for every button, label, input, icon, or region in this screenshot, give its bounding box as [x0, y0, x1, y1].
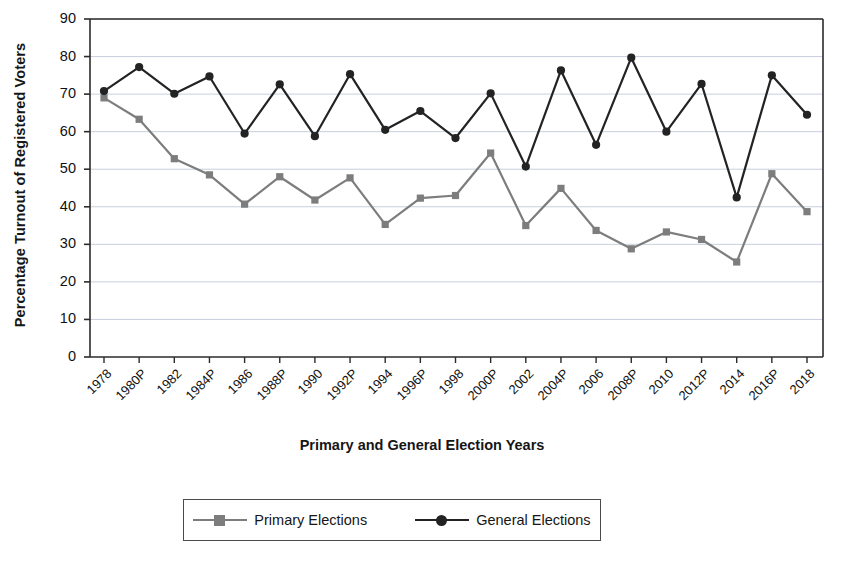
legend-circle-marker-icon	[436, 515, 447, 526]
y-tick-label: 50	[50, 160, 76, 176]
data-point[interactable]	[522, 222, 529, 229]
data-point[interactable]	[452, 192, 459, 199]
data-point[interactable]	[487, 149, 494, 156]
data-point[interactable]	[346, 174, 353, 181]
y-tick-label: 70	[50, 85, 76, 101]
data-point[interactable]	[522, 162, 530, 170]
data-point[interactable]	[663, 228, 670, 235]
y-tick-label: 90	[50, 10, 76, 26]
data-point[interactable]	[733, 258, 740, 265]
data-point[interactable]	[768, 71, 776, 79]
data-point[interactable]	[311, 196, 318, 203]
voter-turnout-line-chart: Percentage Turnout of Registered Voters …	[0, 0, 844, 561]
chart-legend: Primary Elections General Elections	[183, 499, 601, 541]
data-point[interactable]	[593, 227, 600, 234]
data-point[interactable]	[170, 90, 178, 98]
data-point[interactable]	[451, 134, 459, 142]
data-point[interactable]	[487, 89, 495, 97]
legend-label-primary: Primary Elections	[254, 512, 367, 528]
data-point[interactable]	[803, 111, 811, 119]
data-point[interactable]	[241, 129, 249, 137]
y-tick-label: 40	[50, 198, 76, 214]
y-tick-label: 0	[50, 348, 76, 364]
data-point[interactable]	[276, 80, 284, 88]
y-tick-label: 30	[50, 235, 76, 251]
legend-item-general-elections[interactable]: General Elections	[415, 512, 590, 528]
data-point[interactable]	[311, 132, 319, 140]
data-point[interactable]	[100, 87, 108, 95]
data-point[interactable]	[557, 185, 564, 192]
data-point[interactable]	[592, 141, 600, 149]
data-point[interactable]	[276, 173, 283, 180]
data-point[interactable]	[698, 236, 705, 243]
data-point[interactable]	[346, 70, 354, 78]
data-point[interactable]	[417, 195, 424, 202]
data-point[interactable]	[557, 66, 565, 74]
data-point[interactable]	[627, 54, 635, 62]
data-point[interactable]	[697, 80, 705, 88]
data-point[interactable]	[171, 155, 178, 162]
y-tick-label: 80	[50, 48, 76, 64]
y-tick-label: 60	[50, 123, 76, 139]
data-point[interactable]	[241, 201, 248, 208]
legend-square-marker-icon	[214, 515, 225, 526]
data-point[interactable]	[733, 193, 741, 201]
data-point[interactable]	[206, 171, 213, 178]
data-point[interactable]	[662, 128, 670, 136]
y-tick-label: 10	[50, 310, 76, 326]
data-point[interactable]	[136, 116, 143, 123]
data-point[interactable]	[768, 170, 775, 177]
x-axis-title: Primary and General Election Years	[0, 437, 844, 453]
data-point[interactable]	[803, 208, 810, 215]
data-point[interactable]	[135, 63, 143, 71]
data-point[interactable]	[100, 94, 107, 101]
data-point[interactable]	[381, 126, 389, 134]
y-tick-label: 20	[50, 273, 76, 289]
data-point[interactable]	[416, 107, 424, 115]
legend-swatch-general	[415, 513, 469, 527]
legend-item-primary-elections[interactable]: Primary Elections	[193, 512, 367, 528]
legend-label-general: General Elections	[476, 512, 590, 528]
data-point[interactable]	[628, 245, 635, 252]
legend-swatch-primary	[193, 513, 247, 527]
data-point[interactable]	[205, 72, 213, 80]
data-point[interactable]	[382, 221, 389, 228]
